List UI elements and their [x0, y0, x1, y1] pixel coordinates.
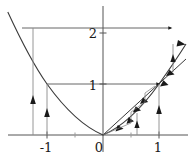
vertical-trace-upper-right [170, 44, 175, 72]
x-axis-tick-label-zero: 0 [95, 141, 103, 154]
y-axis-tick-label-one: 1 [89, 79, 97, 92]
y-axis-tick-label-two: 2 [89, 27, 97, 40]
vertical-trace-right-one [156, 84, 162, 135]
vertical-trace-left-outer [30, 28, 36, 135]
vertical-trace-left-inner [44, 84, 50, 135]
cobweb-arrows-lower [116, 98, 149, 132]
diagonal-line [103, 59, 186, 135]
x-axis-tick-label-neg-one: -1 [40, 141, 53, 154]
cobweb-diagram-figure: -1 0 1 1 2 [0, 0, 191, 165]
x-axis-tick-label-one: 1 [154, 141, 162, 154]
vertical-trace-inner-small [134, 113, 139, 135]
cobweb-arrow-top-right [177, 40, 186, 47]
